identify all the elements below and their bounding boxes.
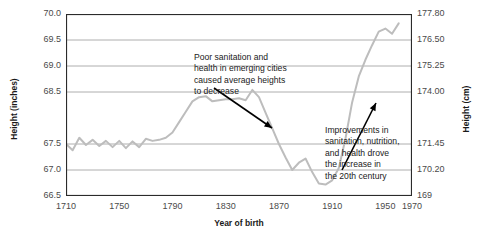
y-axis-title-right: Height (cm) <box>461 59 471 159</box>
x-tick-1910: 1910 <box>312 201 352 211</box>
annotation-line: Improvements in <box>325 125 400 136</box>
y-tick-right-169: 169 <box>417 190 455 200</box>
annotation-line: to decrease <box>194 86 287 97</box>
annotation-line: health in emerging cities <box>194 63 287 74</box>
annotation-line: Poor sanitation and <box>194 52 287 63</box>
y-tick-left-66.5: 66.5 <box>27 190 61 200</box>
annotation-line: the increase in <box>325 159 400 170</box>
y-tick-right-170.20: 170.20 <box>417 164 455 174</box>
annotation-improvements: Improvements insanitation, nutrition,and… <box>325 125 400 182</box>
y-tick-right-171.45: 171.45 <box>417 138 455 148</box>
annotation-line: sanitation, nutrition, <box>325 136 400 147</box>
y-axis-title-left: Height (inches) <box>9 59 19 159</box>
x-tick-1750: 1750 <box>99 201 139 211</box>
x-tick-1970: 1970 <box>392 201 432 211</box>
annotation-line: and health drove <box>325 148 400 159</box>
y-tick-left-70.0: 70.0 <box>27 8 61 18</box>
x-tick-1870: 1870 <box>259 201 299 211</box>
y-tick-left-69.0: 69.0 <box>27 60 61 70</box>
y-tick-left-67.0: 67.0 <box>27 164 61 174</box>
annotation-poor-sanitation: Poor sanitation andhealth in emerging ci… <box>194 52 287 98</box>
y-tick-left-68.5: 68.5 <box>27 86 61 96</box>
x-tick-1710: 1710 <box>46 201 86 211</box>
annotation-line: the 20th century <box>325 171 400 182</box>
y-tick-right-176.50: 176.50 <box>417 34 455 44</box>
annotation-line: caused average heights <box>194 75 287 86</box>
y-tick-left-67.5: 67.5 <box>27 138 61 148</box>
height-trend-chart: Height (inches) Height (cm) Year of birt… <box>0 0 491 239</box>
y-tick-right-175.25: 175.25 <box>417 60 455 70</box>
x-tick-1790: 1790 <box>152 201 192 211</box>
x-tick-1830: 1830 <box>206 201 246 211</box>
y-tick-left-69.5: 69.5 <box>27 34 61 44</box>
y-tick-right-177.80: 177.80 <box>417 8 455 18</box>
y-tick-right-174.00: 174.00 <box>417 86 455 96</box>
x-axis-title: Year of birth <box>66 218 412 228</box>
